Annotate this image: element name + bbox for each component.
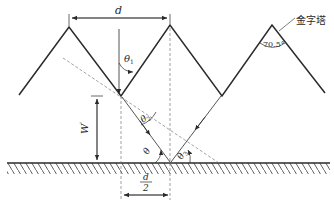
- height-dimension: [91, 96, 103, 160]
- period-label: d: [115, 4, 122, 17]
- theta-arc: [155, 150, 161, 163]
- pyramid-reflection-diagram: d d 2 W' θ1 θ2 θ θ3 70.5° 金字塔: [0, 0, 334, 205]
- surface-normal-dashed: [63, 58, 219, 163]
- pyramid-label: 金字塔: [296, 14, 326, 26]
- theta-label: θ: [141, 146, 153, 156]
- half-period-numerator: d: [143, 172, 149, 182]
- ray-direction-arrow-2: [195, 117, 205, 130]
- theta3-label: θ3: [175, 148, 189, 162]
- half-period-denominator: 2: [142, 183, 149, 193]
- apex-angle-label: 70.5°: [263, 40, 285, 49]
- ground-surface: [7, 163, 330, 174]
- theta2-label: θ2: [138, 111, 152, 125]
- theta1-label: θ1: [124, 53, 134, 65]
- theta3-arc: [188, 150, 190, 163]
- pyramid-leader-line: [279, 18, 295, 31]
- height-label: W': [78, 122, 90, 134]
- pyramid-profile: [19, 25, 325, 96]
